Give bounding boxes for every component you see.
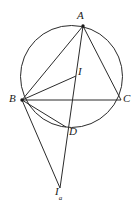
point-label-ia-subscript: a [59, 194, 63, 202]
segment-BI [22, 76, 76, 100]
point-label-ia: Ia [55, 186, 62, 200]
point-label-c: C [123, 93, 130, 104]
segment-AC [83, 26, 121, 100]
point-B-dot [20, 98, 23, 101]
point-label-b: B [9, 93, 16, 104]
point-label-a: A [77, 10, 84, 21]
point-label-i: I [78, 66, 82, 77]
geometry-figure: A B C I D Ia [0, 0, 135, 213]
point-A-dot [81, 24, 84, 27]
figure-canvas [0, 0, 135, 213]
circumcircle [21, 26, 123, 128]
segment-BD [22, 100, 66, 127]
segment-B-Ia [22, 100, 60, 188]
point-label-d: D [69, 126, 77, 137]
